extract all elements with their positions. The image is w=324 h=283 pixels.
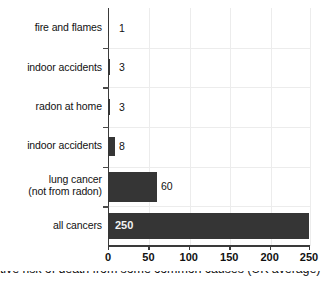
category-label: fire and flames (0, 21, 102, 34)
x-axis-label-100: 100 (180, 251, 198, 263)
caption-strip: tive risk of death from some common caus… (0, 271, 324, 283)
bar (108, 99, 110, 115)
chart-row: all cancers 250 (0, 206, 324, 246)
caption-divider (0, 269, 324, 270)
chart-row: radon at home 3 (0, 87, 324, 127)
bar (108, 59, 110, 75)
category-label-line2: (not from radon) (0, 185, 102, 198)
bar (108, 137, 115, 156)
figure-caption: tive risk of death from some common caus… (0, 271, 324, 276)
chart-row: lung cancer (not from radon) 60 (0, 167, 324, 207)
category-label: radon at home (0, 100, 102, 113)
chart-row: fire and flames 1 (0, 8, 324, 48)
x-axis-label-150: 150 (220, 251, 238, 263)
x-axis-tick-100 (189, 246, 190, 250)
bar-value-label: 60 (161, 180, 173, 192)
bar (108, 213, 309, 239)
bar-value-label: 3 (119, 61, 125, 73)
x-axis-tick-250 (309, 246, 310, 250)
x-axis-tick-50 (148, 246, 149, 250)
x-axis-label-0: 0 (105, 251, 111, 263)
bar-value-label: 1 (119, 22, 125, 34)
x-axis-tick-0 (108, 246, 109, 250)
chart-row: indoor accidents 8 (0, 127, 324, 167)
bar (108, 20, 109, 36)
category-label: indoor accidents (0, 139, 102, 152)
x-axis-tick-200 (270, 246, 271, 250)
x-axis-label-250: 250 (300, 251, 318, 263)
category-label: all cancers (0, 219, 102, 232)
category-label: indoor accidents (0, 61, 102, 74)
bar (108, 172, 157, 202)
bar-value-label: 8 (119, 140, 125, 152)
category-label-line1: lung cancer (0, 173, 102, 186)
bar-value-label: 3 (119, 101, 125, 113)
x-axis-label-200: 200 (260, 251, 278, 263)
chart-row: indoor accidents 3 (0, 48, 324, 88)
x-axis-tick-150 (229, 246, 230, 250)
bar-chart-figure: fire and flames 1 indoor accidents 3 rad… (0, 0, 324, 283)
x-axis-label-50: 50 (142, 251, 154, 263)
bar-value-label: 250 (115, 219, 133, 231)
